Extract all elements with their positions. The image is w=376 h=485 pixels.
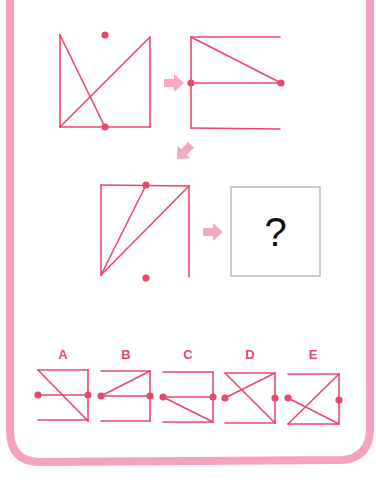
- figure-dot: [101, 123, 108, 130]
- figure-1: [60, 31, 150, 130]
- puzzle-svg: ? ABCDE: [0, 0, 376, 485]
- arrow-2-right-arrow-icon: [171, 139, 198, 166]
- arrow-1-right-arrow-icon: [164, 74, 184, 92]
- figure-dot: [142, 181, 149, 188]
- figure-2: [187, 37, 284, 129]
- question-mark: ?: [264, 210, 286, 254]
- option-b[interactable]: B: [97, 347, 153, 421]
- figure-dot: [221, 394, 228, 401]
- figure-line: [288, 398, 339, 424]
- figure-dot: [97, 392, 104, 399]
- figure-line: [60, 35, 105, 127]
- figure-dot: [284, 394, 291, 401]
- puzzle-canvas: ? ABCDE: [0, 0, 376, 485]
- figure-3: [101, 181, 189, 281]
- option-d[interactable]: D: [221, 347, 278, 423]
- option-label: C: [183, 347, 193, 362]
- answer-options[interactable]: ABCDE: [34, 347, 342, 424]
- figure-line: [101, 371, 150, 396]
- figure-dot: [142, 274, 149, 281]
- sequence-arrows: [164, 74, 223, 241]
- figure-dot: [84, 391, 91, 398]
- arrow-3-right-arrow-icon: [203, 223, 223, 241]
- figure-line: [163, 397, 213, 422]
- option-c[interactable]: C: [159, 347, 216, 422]
- figure-dot: [277, 79, 284, 86]
- option-a[interactable]: A: [34, 347, 91, 421]
- option-e[interactable]: E: [284, 347, 342, 424]
- figure-line: [225, 373, 275, 423]
- figure-line: [60, 37, 150, 127]
- figure-dot: [34, 391, 41, 398]
- figure-line: [101, 185, 146, 275]
- figure-line: [101, 186, 189, 275]
- question-box: ?: [231, 187, 320, 276]
- figure-dot: [271, 394, 278, 401]
- figure-dot: [187, 79, 194, 86]
- option-label: D: [245, 347, 254, 362]
- option-label: E: [309, 347, 318, 362]
- figure-line: [191, 37, 281, 83]
- option-label: B: [121, 347, 130, 362]
- figure-line: [225, 373, 275, 398]
- figure-dot: [146, 392, 153, 399]
- option-label: A: [58, 347, 68, 362]
- figure-dot: [159, 393, 166, 400]
- figure-line: [288, 374, 339, 424]
- figure-dot: [101, 31, 108, 38]
- figure-dot: [335, 396, 342, 403]
- figure-dot: [209, 393, 216, 400]
- figure-line: [191, 128, 280, 129]
